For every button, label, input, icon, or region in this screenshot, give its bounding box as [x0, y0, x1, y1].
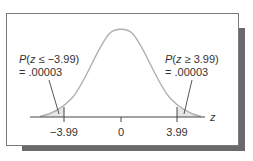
axis-label-z: z	[209, 111, 216, 123]
tick-label-pos: 3.99	[166, 126, 187, 138]
left-annotation-line1: P(z ≤ −3.99)	[19, 53, 79, 65]
left-annotation-line2: = .00003	[19, 66, 62, 78]
tick-label-neg: −3.99	[50, 126, 78, 138]
right-leader-line	[184, 80, 192, 114]
right-annotation-line2: = .00003	[165, 66, 208, 78]
left-leader-line	[49, 80, 59, 114]
right-annotation-line1: P(z ≥ 3.99)	[165, 53, 219, 65]
tick-label-zero: 0	[118, 126, 124, 138]
normal-curve-figure: z −3.99 0 3.99 P(z ≤ −3.99) = .00003 P(z…	[0, 0, 253, 161]
